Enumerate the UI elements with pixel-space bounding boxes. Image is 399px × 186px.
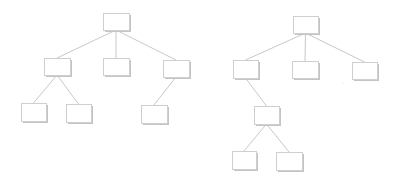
node-box: [233, 152, 257, 170]
node-box: [353, 63, 378, 80]
right-tree-edge: [244, 124, 267, 151]
left-tree-edge: [57, 75, 79, 104]
nodes-layer: [22, 14, 380, 173]
edges-layer: [34, 30, 365, 152]
right-tree-node: [234, 61, 261, 81]
speck-artifact: [342, 82, 343, 83]
right-tree-node: [233, 152, 259, 172]
node-box: [104, 14, 130, 31]
left-tree-node: [45, 59, 73, 78]
right-tree-edge: [267, 124, 290, 152]
node-box: [293, 62, 319, 79]
right-tree-node: [277, 153, 305, 173]
node-box: [164, 61, 190, 78]
right-tree-node: [293, 62, 321, 81]
left-tree-node: [22, 104, 49, 124]
node-box: [67, 105, 92, 123]
node-box: [45, 59, 71, 76]
right-tree-node: [353, 63, 380, 82]
left-tree-edge: [154, 77, 176, 105]
left-tree-edge: [34, 75, 58, 103]
right-tree-edge: [246, 78, 267, 106]
node-box: [22, 104, 47, 122]
left-tree-node: [67, 105, 94, 125]
tree-diagram: [0, 0, 399, 186]
left-tree-node: [142, 106, 170, 126]
left-tree-node: [104, 14, 132, 33]
right-tree-node: [255, 107, 282, 127]
left-tree-edge: [57, 30, 116, 58]
node-box: [294, 17, 319, 34]
node-box: [142, 106, 168, 124]
right-tree-edge: [306, 33, 365, 62]
node-box: [104, 59, 130, 76]
node-box: [234, 61, 259, 79]
left-tree-edge: [116, 30, 176, 60]
node-box: [255, 107, 280, 125]
node-box: [277, 153, 303, 171]
left-tree-node: [104, 59, 132, 78]
left-tree-node: [164, 61, 192, 80]
right-tree-edge: [246, 33, 306, 60]
right-tree-edge: [305, 33, 306, 61]
right-tree-node: [294, 17, 321, 36]
